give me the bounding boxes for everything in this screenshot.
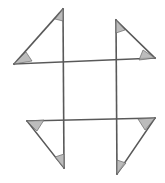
- line-horizontal-bottom: [27, 118, 155, 121]
- angle-marker-bottom-left-apex: [55, 154, 64, 168]
- line-vertical-right: [116, 20, 117, 174]
- pinwheel-triangles-svg: [0, 0, 165, 183]
- figure-canvas: [0, 0, 165, 183]
- angle-marker-bottom-right-right: [138, 118, 155, 130]
- line-horizontal-top: [14, 58, 155, 64]
- angle-marker-top-left-apex: [55, 9, 63, 21]
- hypotenuse-top-right: [116, 20, 155, 58]
- line-vertical-left: [63, 9, 64, 168]
- hypotenuse-top-left: [14, 9, 63, 64]
